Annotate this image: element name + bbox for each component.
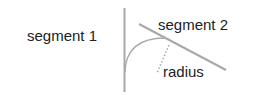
radius-label: radius xyxy=(163,64,204,79)
segment-2-label: segment 2 xyxy=(158,17,228,32)
segment-1-label: segment 1 xyxy=(27,28,97,43)
arc-diagram xyxy=(0,0,264,95)
arc-curve xyxy=(125,38,165,72)
